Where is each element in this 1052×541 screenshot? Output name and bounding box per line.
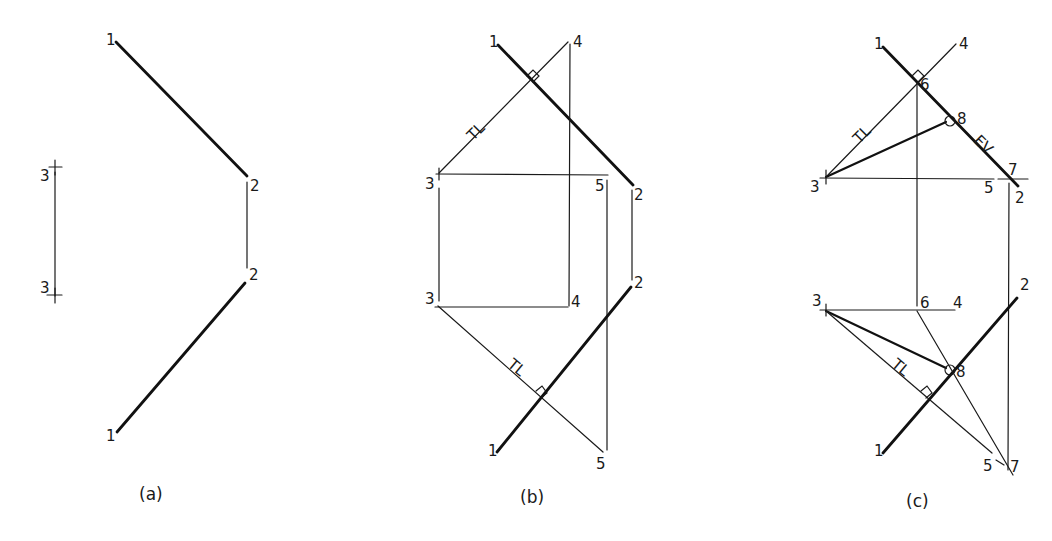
- label-5-top: 5: [595, 177, 605, 195]
- label-7-bottom: 7: [1010, 458, 1020, 476]
- label-1-top: 1: [106, 31, 116, 49]
- label-2-top: 2: [1015, 189, 1025, 207]
- label-tl-top: TL: [849, 122, 875, 148]
- caption-b: (b): [520, 487, 544, 507]
- label-tl-bottom: TL: [503, 354, 529, 380]
- label-8-top: 8: [957, 110, 967, 128]
- label-1-bottom: 1: [106, 427, 116, 445]
- label-ev: EV: [970, 131, 997, 158]
- label-2-bottom: 2: [249, 266, 259, 284]
- caption-c: (c): [906, 491, 929, 511]
- label-4-top: 4: [959, 35, 969, 53]
- label-4-bottom: 4: [571, 293, 581, 311]
- label-5-bottom: 5: [983, 457, 993, 475]
- label-2-bottom: 2: [1020, 276, 1030, 294]
- projector-7: [1008, 183, 1009, 470]
- label-3-bottom: 3: [812, 292, 822, 310]
- label-1-top: 1: [874, 35, 884, 53]
- label-7-top: 7: [1008, 161, 1018, 179]
- label-1-bottom: 1: [488, 442, 498, 460]
- line-1-2-front-view: [117, 283, 245, 432]
- label-1-bottom: 1: [874, 442, 884, 460]
- panel-c: 1 4 6 8 TL EV 3 5 7 2 3 6 4 2 8 TL 1 5 7…: [810, 35, 1030, 511]
- line-1-2-top-view: [116, 42, 247, 176]
- line-3-4-true-length: [439, 42, 568, 173]
- line-3-5-true-length: [826, 311, 992, 453]
- line-3-8-front: [826, 311, 946, 368]
- label-3-bottom: 3: [40, 279, 50, 297]
- label-4-top: 4: [573, 33, 583, 51]
- label-tl-bottom: TL: [887, 354, 913, 380]
- label-2-top: 2: [250, 177, 260, 195]
- panel-a: 1 2 2 1 3 3 (a): [40, 31, 260, 504]
- descriptive-geometry-figure: 1 2 2 1 3 3 (a) 1 4 TL 3 5 2 3 4 2 TL 1 …: [0, 0, 1052, 541]
- label-1-top: 1: [489, 33, 499, 51]
- label-2-top: 2: [634, 186, 644, 204]
- line-3-5-true-length: [438, 306, 603, 452]
- caption-a: (a): [139, 484, 163, 504]
- line-3-5-top: [820, 178, 994, 179]
- line-1-2-top-view: [498, 45, 633, 185]
- label-5-top: 5: [984, 179, 994, 197]
- label-3-bottom: 3: [425, 290, 435, 308]
- label-tl-top: TL: [463, 119, 489, 145]
- label-8-bottom: 8: [956, 363, 966, 381]
- label-2-bottom: 2: [634, 274, 644, 292]
- label-6-top: 6: [920, 76, 930, 94]
- label-3-top: 3: [40, 167, 50, 185]
- panel-b: 1 4 TL 3 5 2 3 4 2 TL 1 5 (b): [425, 33, 644, 507]
- label-3-top: 3: [810, 178, 820, 196]
- line-3-5-top: [436, 174, 608, 175]
- label-5-bottom: 5: [596, 455, 606, 473]
- line-3-8-top: [826, 122, 946, 177]
- label-3-top: 3: [425, 175, 435, 193]
- projector-4: [569, 44, 570, 306]
- line-3-4-true-length: [826, 44, 956, 177]
- tick-5: [996, 460, 1004, 465]
- label-6-bottom: 6: [920, 294, 930, 312]
- label-4-bottom: 4: [953, 294, 963, 312]
